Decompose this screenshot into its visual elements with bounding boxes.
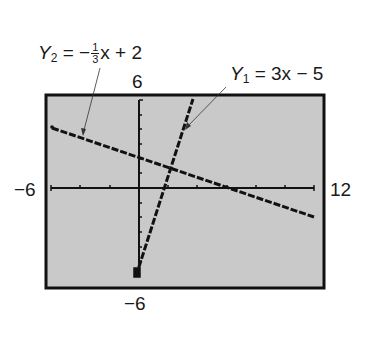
y2-name: Y: [38, 42, 51, 63]
y2-sub: 2: [51, 51, 58, 65]
xmax-label: 12: [330, 180, 351, 199]
ymin-label: −6: [124, 294, 146, 313]
y2-rhs: x + 2: [100, 42, 142, 63]
y2-eq: = −: [63, 42, 90, 63]
y2-fraction: 13: [91, 42, 99, 65]
y1-rhs: = 3x − 5: [255, 63, 324, 84]
ymax-label: 6: [132, 72, 143, 91]
y1-name: Y: [230, 63, 243, 84]
y1-equation-label: Y1 = 3x − 5: [230, 64, 323, 85]
y2-equation-label: Y2 = −13x + 2: [38, 42, 142, 65]
y1-sub: 1: [243, 72, 250, 86]
xmin-label: −6: [14, 180, 36, 199]
